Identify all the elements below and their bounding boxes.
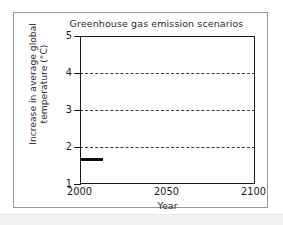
plot-area: 5 4 3 2 1 2000 2050 2100 Year bbox=[65, 36, 255, 194]
x-axis-title: Year bbox=[80, 200, 255, 211]
x-tick-label-2000: 2000 bbox=[67, 186, 92, 197]
x-tick-label-2100: 2100 bbox=[241, 186, 266, 197]
x-tick-label-2050: 2050 bbox=[154, 186, 179, 197]
y-tick-mark-2 bbox=[74, 147, 81, 148]
gridline-y-3 bbox=[80, 110, 255, 111]
gridline-y-2 bbox=[80, 147, 255, 148]
gridline-y-4 bbox=[80, 73, 255, 74]
footer-strip bbox=[0, 214, 283, 225]
y-tick-mark-3 bbox=[74, 110, 81, 111]
y-axis-title-line-2: temperature (°C) bbox=[38, 45, 49, 124]
figure-card: Greenhouse gas emission scenarios Increa… bbox=[13, 12, 268, 208]
y-tick-label-4: 4 bbox=[58, 68, 72, 78]
y-tick-label-5: 5 bbox=[58, 31, 72, 41]
data-series-observed bbox=[81, 158, 103, 161]
y-tick-label-3: 3 bbox=[58, 105, 72, 115]
y-axis-title-line-1: Increase in average global bbox=[27, 23, 38, 145]
y-tick-label-2: 2 bbox=[58, 142, 72, 152]
y-tick-mark-5 bbox=[74, 36, 81, 37]
y-axis-title: Increase in average global temperature (… bbox=[25, 13, 51, 155]
y-tick-mark-4 bbox=[74, 73, 81, 74]
y-tick-mark-1 bbox=[74, 184, 81, 185]
page-root: Greenhouse gas emission scenarios Increa… bbox=[0, 0, 283, 225]
chart-title: Greenhouse gas emission scenarios bbox=[54, 18, 259, 29]
